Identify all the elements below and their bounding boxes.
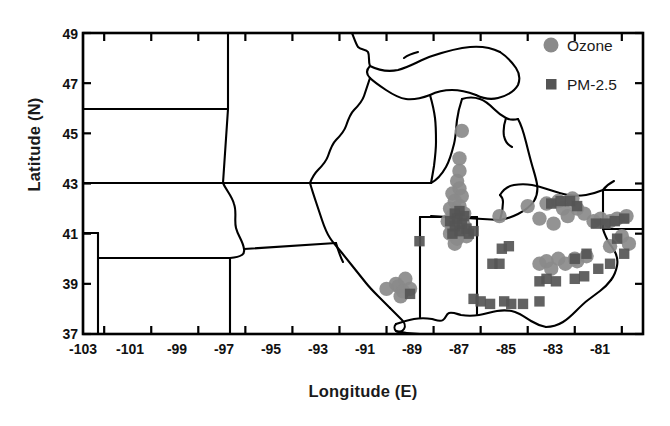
data-point-ozone (455, 124, 469, 138)
data-point-pm-2-5 (551, 276, 561, 286)
legend-marker-pm25 (546, 79, 557, 90)
data-point-pm-2-5 (593, 264, 603, 274)
figure-container: Latitude (N) Longitude (E) 49 47 45 43 4… (0, 0, 670, 426)
data-point-ozone (546, 216, 560, 230)
data-point-pm-2-5 (570, 274, 580, 284)
data-point-pm-2-5 (570, 254, 580, 264)
data-point-ozone (532, 211, 546, 225)
data-point-pm-2-5 (468, 226, 478, 236)
data-point-ozone (521, 199, 535, 213)
data-point-pm-2-5 (600, 218, 610, 228)
data-markers (379, 124, 636, 309)
data-point-pm-2-5 (546, 198, 556, 208)
data-point-ozone (379, 282, 393, 296)
map-plot-area (0, 0, 670, 426)
data-point-pm-2-5 (518, 299, 528, 309)
legend-marker-ozone (544, 38, 559, 53)
data-point-ozone (452, 151, 466, 165)
data-point-pm-2-5 (475, 296, 485, 306)
data-point-pm-2-5 (405, 289, 415, 299)
state-boundaries (83, 33, 643, 334)
data-point-ozone (492, 209, 506, 223)
data-point-pm-2-5 (506, 299, 516, 309)
data-point-pm-2-5 (605, 259, 615, 269)
data-point-pm-2-5 (447, 228, 457, 238)
data-point-pm-2-5 (619, 213, 629, 223)
data-point-pm-2-5 (610, 216, 620, 226)
data-point-pm-2-5 (581, 249, 591, 259)
data-point-pm-2-5 (534, 296, 544, 306)
data-point-pm-2-5 (555, 196, 565, 206)
data-point-pm-2-5 (572, 201, 582, 211)
data-point-pm-2-5 (494, 259, 504, 269)
data-point-pm-2-5 (485, 299, 495, 309)
data-point-pm-2-5 (504, 241, 514, 251)
legend (544, 38, 559, 90)
data-point-pm-2-5 (579, 271, 589, 281)
data-point-pm-2-5 (619, 249, 629, 259)
data-point-pm-2-5 (414, 236, 424, 246)
data-point-pm-2-5 (541, 274, 551, 284)
data-point-pm-2-5 (591, 218, 601, 228)
data-point-pm-2-5 (612, 233, 622, 243)
